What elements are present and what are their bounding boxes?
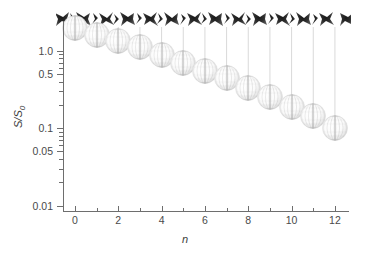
y-tick-minor	[59, 54, 63, 55]
x-tick-major	[75, 206, 76, 212]
y-tick-label: 0.01	[33, 200, 53, 212]
y-tick-label: 0.05	[33, 145, 53, 157]
x-tick-major	[248, 206, 249, 212]
y-tick-minor	[59, 68, 63, 69]
x-tick-major	[292, 206, 293, 212]
y-tick-minor	[59, 145, 63, 146]
y-tick-minor	[59, 136, 63, 137]
figure-panel: 1.00.50.10.050.01024681012 n S/S0	[0, 0, 370, 259]
x-tick-label: 10	[286, 214, 298, 226]
y-tick-major	[57, 51, 63, 52]
y-axis-title: S/S0	[12, 106, 27, 128]
x-tick-major	[162, 206, 163, 212]
x-tick-label: 4	[159, 214, 165, 226]
y-tick-label: 0.1	[38, 122, 53, 134]
x-tick-major	[118, 206, 119, 212]
x-tick-label: 0	[72, 214, 78, 226]
x-tick-label: 2	[115, 214, 121, 226]
x-tick-label: 12	[329, 214, 341, 226]
y-tick-minor	[59, 132, 63, 133]
y-axis-title-main: S/S	[12, 110, 24, 128]
y-tick-major	[57, 74, 63, 75]
y-tick-minor	[59, 91, 63, 92]
x-tick-minor	[140, 208, 141, 212]
y-tick-minor	[59, 82, 63, 83]
x-tick-label: 8	[245, 214, 251, 226]
y-tick-minor	[59, 159, 63, 160]
y-axis-line	[63, 22, 64, 212]
y-tick-minor	[59, 169, 63, 170]
y-tick-label: 1.0	[38, 45, 53, 57]
x-tick-minor	[97, 208, 98, 212]
x-axis-title: n	[0, 233, 370, 245]
y-tick-major	[57, 128, 63, 129]
y-tick-minor	[59, 182, 63, 183]
y-tick-minor	[59, 58, 63, 59]
x-tick-minor	[313, 208, 314, 212]
y-tick-label: 0.5	[38, 68, 53, 80]
x-axis-line	[63, 211, 349, 212]
x-tick-major	[335, 206, 336, 212]
x-tick-minor	[183, 208, 184, 212]
x-tick-minor	[270, 208, 271, 212]
x-tick-label: 6	[202, 214, 208, 226]
data-point-marker	[321, 115, 348, 142]
y-tick-minor	[59, 63, 63, 64]
x-tick-major	[205, 206, 206, 212]
y-axis-title-subscript: 0	[18, 106, 27, 110]
y-tick-minor	[59, 105, 63, 106]
drop-lines	[0, 0, 370, 259]
y-tick-major	[57, 206, 63, 207]
y-tick-minor	[59, 140, 63, 141]
x-tick-minor	[227, 208, 228, 212]
y-tick-major	[57, 151, 63, 152]
